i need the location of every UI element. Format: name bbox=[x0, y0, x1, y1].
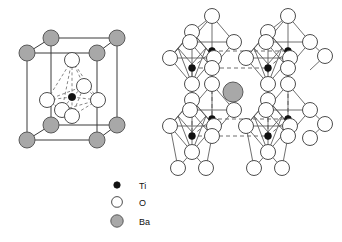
central-barium-atom bbox=[223, 82, 243, 102]
oxygen-atom bbox=[183, 103, 198, 118]
titanium-atom bbox=[68, 93, 75, 100]
oxygen-atom bbox=[91, 93, 106, 108]
perovskite-structure-figure: Ti O Ba bbox=[0, 0, 342, 242]
oxygen-atom bbox=[183, 35, 198, 50]
oxygen-atom bbox=[185, 145, 200, 160]
oxygen-atom bbox=[259, 35, 274, 50]
oxygen-atom bbox=[303, 131, 318, 146]
titanium-atom bbox=[189, 133, 196, 140]
oxygen-atom bbox=[199, 161, 214, 176]
oxygen-atom bbox=[303, 35, 318, 50]
barium-atom bbox=[43, 30, 59, 46]
oxygen-atom bbox=[247, 161, 262, 176]
legend-ba-marker-icon bbox=[111, 215, 123, 227]
oxygen-atom bbox=[40, 93, 55, 108]
legend-ti-marker-icon bbox=[114, 182, 120, 188]
oxygen-atom bbox=[77, 79, 92, 94]
oxygen-atom bbox=[185, 77, 200, 92]
oxygen-atom bbox=[163, 119, 178, 134]
legend-o-label: O bbox=[139, 198, 146, 208]
titanium-atom bbox=[265, 65, 272, 72]
unit-cell-oxygen-atoms bbox=[40, 53, 106, 124]
oxygen-atom bbox=[281, 9, 296, 24]
legend-ba-label: Ba bbox=[139, 217, 150, 227]
network-oxygen-atoms bbox=[163, 9, 333, 176]
oxygen-atom bbox=[227, 35, 242, 50]
oxygen-atom bbox=[275, 161, 290, 176]
oxygen-atom bbox=[205, 9, 220, 24]
oxygen-atom bbox=[239, 119, 254, 134]
oxygen-atom bbox=[239, 51, 254, 66]
oxygen-atom bbox=[65, 109, 80, 124]
oxygen-atom bbox=[259, 103, 274, 118]
legend-item-ti: Ti bbox=[114, 181, 146, 191]
unit-cell-group bbox=[19, 30, 125, 148]
barium-atom bbox=[89, 45, 105, 61]
legend-ti-label: Ti bbox=[139, 181, 146, 191]
oxygen-atom bbox=[227, 103, 242, 118]
oxygen-atom bbox=[205, 61, 220, 76]
titanium-atom bbox=[265, 133, 272, 140]
barium-atom bbox=[19, 45, 35, 61]
oxygen-atom bbox=[281, 77, 296, 92]
barium-atom bbox=[109, 117, 125, 133]
oxygen-atom bbox=[171, 161, 186, 176]
barium-atom bbox=[109, 30, 125, 46]
legend-item-ba: Ba bbox=[111, 215, 150, 227]
titanium-atom bbox=[189, 65, 196, 72]
barium-atom bbox=[19, 132, 35, 148]
legend: Ti O Ba bbox=[111, 181, 150, 227]
oxygen-atom bbox=[281, 61, 296, 76]
barium-atom bbox=[43, 117, 59, 133]
oxygen-atom bbox=[318, 117, 333, 132]
oxygen-atom bbox=[303, 103, 318, 118]
oxygen-atom bbox=[65, 53, 80, 68]
oxygen-atom bbox=[261, 77, 276, 92]
legend-item-o: O bbox=[112, 197, 146, 208]
oxygen-atom bbox=[261, 145, 276, 160]
barium-atom bbox=[89, 132, 105, 148]
oxygen-atom bbox=[205, 77, 220, 92]
cube-front-face-edge bbox=[27, 53, 97, 140]
oxygen-atom bbox=[163, 51, 178, 66]
oxygen-atom bbox=[205, 129, 220, 144]
octahedral-network-panel bbox=[163, 9, 333, 176]
oxygen-atom bbox=[281, 129, 296, 144]
oxygen-atom bbox=[318, 49, 333, 64]
unit-cell-panel: Ti O Ba bbox=[0, 0, 342, 242]
